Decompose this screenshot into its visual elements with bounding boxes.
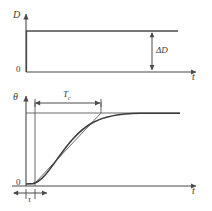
top-chart-delta-d-label: ΔD [156, 46, 168, 55]
top-chart-y-axis-label: D [13, 10, 20, 20]
bottom-chart-group [12, 96, 196, 199]
bottom-chart-delay-label: τ [28, 196, 31, 204]
top-chart-x-axis-label: t [192, 72, 195, 82]
figure-canvas [0, 0, 212, 211]
bottom-chart-time-constant-label: Tc [63, 90, 71, 101]
bottom-chart-reaction-curve [26, 113, 180, 184]
top-chart-group [26, 14, 196, 72]
bottom-chart-origin-label: 0 [16, 178, 21, 187]
step-response-figure: D t 0 ΔD θ t 0 Tc τ [0, 0, 212, 211]
bottom-chart-y-axis-label: θ [13, 92, 18, 102]
time-constant-subscript: c [68, 95, 71, 101]
bottom-chart-x-axis-label: t [192, 186, 195, 196]
top-chart-origin-label: 0 [16, 65, 21, 74]
